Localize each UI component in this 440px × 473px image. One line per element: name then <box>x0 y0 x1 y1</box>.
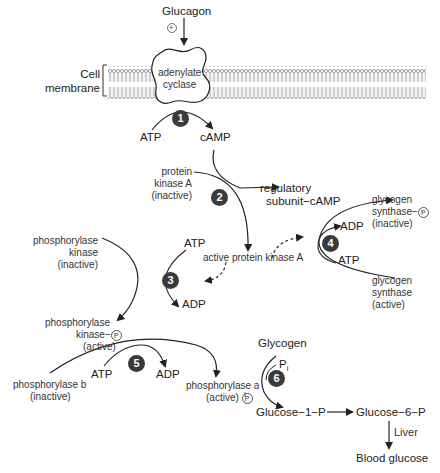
regulatory-subunit-1: regulatory <box>260 182 311 195</box>
phk-active-2: kinase−P <box>76 329 122 341</box>
step-1-camp: cAMP <box>200 131 231 144</box>
phk-inactive-3: (inactive) <box>30 259 98 271</box>
step-3-atp: ATP <box>184 237 206 250</box>
pka-inactive-1: protein <box>120 166 192 178</box>
regulatory-subunit-2: subunit−cAMP <box>266 195 340 208</box>
adenylate-cyclase-label-1: adenylate <box>158 67 201 79</box>
phosphorylase-a-1: phosphorylase a <box>186 380 259 392</box>
gs-inactive-2: synthase−P <box>372 206 429 218</box>
step-4-atp: ATP <box>338 254 360 267</box>
pka-inactive-3: (inactive) <box>120 190 192 202</box>
step-4-badge: 4 <box>322 235 339 252</box>
phk-active-1: phosphorylase <box>30 317 110 329</box>
membrane-label-line1: Cell <box>58 68 100 81</box>
glucose-6-p-label: Glucose−6−P <box>356 406 426 419</box>
step-3-adp: ADP <box>182 298 206 311</box>
step-2-badge: 2 <box>211 189 228 206</box>
step-1-atp: ATP <box>140 131 162 144</box>
step-1-badge: 1 <box>172 110 189 127</box>
membrane-label-line2: membrane <box>36 82 100 95</box>
pka-inactive-2: kinase A <box>120 178 192 190</box>
step-5-atp: ATP <box>91 368 113 381</box>
active-pka-label: active protein kinase A <box>203 252 303 264</box>
step-6-badge: 6 <box>268 370 285 387</box>
blood-glucose-label: Blood glucose <box>356 452 428 465</box>
liver-label: Liver <box>394 426 418 438</box>
gs-inactive-3: (inactive) <box>372 218 413 230</box>
gs-active-3: (active) <box>372 299 405 311</box>
stimulation-plus-icon: + <box>169 22 173 34</box>
phk-active-3: (active) <box>83 341 116 353</box>
step-5-badge: 5 <box>128 355 145 372</box>
phosphate-icon: P <box>418 207 429 218</box>
phk-inactive-2: kinase <box>30 247 98 259</box>
phosphate-icon: P <box>111 330 122 341</box>
gs-active-2: synthase <box>372 287 412 299</box>
adenylate-cyclase-label-2: cyclase <box>163 79 196 91</box>
phosphorylase-a-2: (active) P <box>206 392 253 404</box>
step-3-badge: 3 <box>162 272 179 289</box>
gs-inactive-1: glycogen <box>372 194 412 206</box>
phk-inactive-1: phosphorylase <box>30 235 98 247</box>
step-5-adp: ADP <box>156 368 180 381</box>
phosphate-icon: P <box>242 393 253 404</box>
glucose-1-p-label: Glucose−1−P <box>256 406 326 419</box>
glycogen-label: Glycogen <box>258 337 307 350</box>
glucagon-label: Glucagon <box>162 5 211 18</box>
phosphorylase-b-2: (inactive) <box>30 391 71 403</box>
phosphorylase-b-1: phosphorylase b <box>13 379 86 391</box>
gs-active-1: glycogen <box>372 275 412 287</box>
step-4-adp: ADP <box>340 220 364 233</box>
